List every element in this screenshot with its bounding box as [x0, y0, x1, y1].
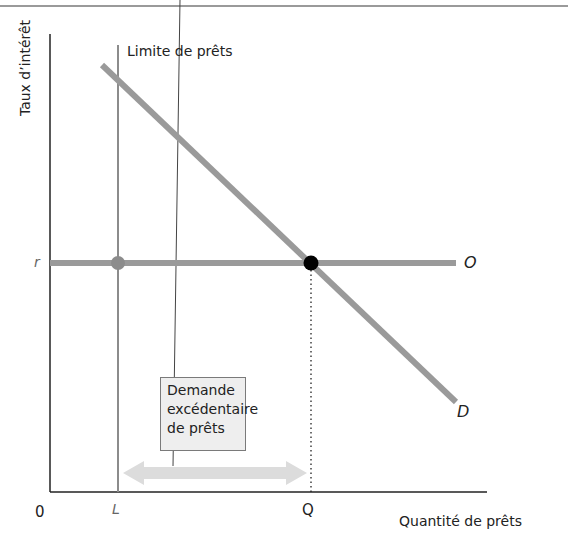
- y-axis-label: Taux d’intérêt: [17, 13, 33, 123]
- limit-point: [111, 256, 125, 270]
- excess-demand-arrow: [123, 461, 307, 485]
- callout-line-1: Demande: [167, 381, 239, 400]
- callout-line-2: excédentaire: [167, 400, 239, 419]
- lending-limit-label: Limite de prêts: [127, 43, 232, 59]
- demand-curve-D: [102, 65, 456, 402]
- supply-label-O: O: [464, 253, 477, 272]
- Q-tick-label: Q: [302, 501, 314, 519]
- r-tick-label: r: [34, 254, 40, 270]
- L-tick-label: L: [112, 501, 120, 517]
- equilibrium-point: [304, 256, 319, 271]
- x-axis-label: Quantité de prêts: [399, 513, 522, 529]
- origin-label: 0: [35, 503, 45, 521]
- chart-canvas: [0, 0, 568, 554]
- demand-label-D: D: [457, 402, 469, 421]
- excess-demand-callout: Demande excédentaire de prêts: [160, 377, 246, 451]
- callout-line-3: de prêts: [167, 419, 239, 438]
